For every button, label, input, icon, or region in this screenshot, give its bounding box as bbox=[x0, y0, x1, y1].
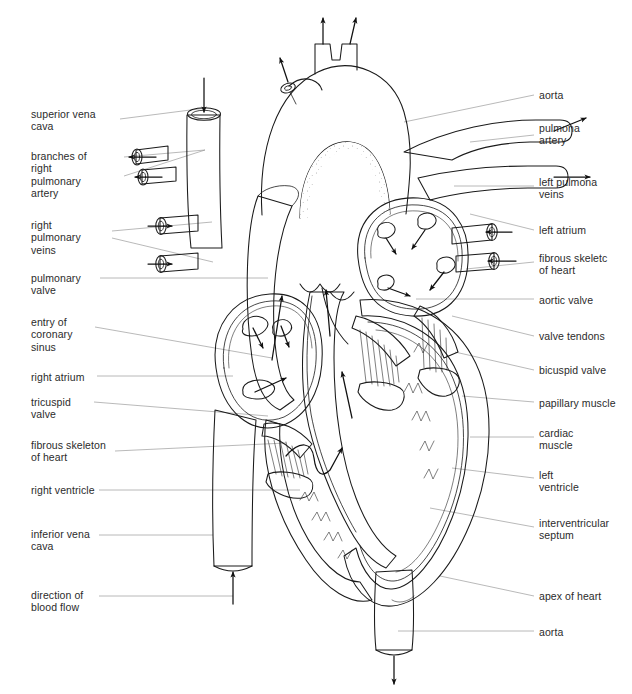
label-tricuspid-valve: tricuspid valve bbox=[31, 396, 71, 421]
label-apex-of-heart: apex of heart bbox=[539, 590, 601, 602]
label-entry-of-coronary-sinus: entry of coronary sinus bbox=[31, 316, 73, 353]
right-pulmonary-vessels bbox=[129, 146, 198, 272]
aorta-arch bbox=[261, 18, 410, 218]
label-left-ventricle: left ventricle bbox=[539, 469, 579, 494]
label-right-pulmonary-veins: right pulmonary veins bbox=[31, 219, 81, 256]
leader-lines-right bbox=[398, 95, 534, 631]
label-papillary-muscle: papillary muscle bbox=[539, 397, 616, 409]
left-atrium-chamber bbox=[358, 198, 469, 316]
label-pulmonary-valve: pulmonary valve bbox=[31, 272, 81, 297]
label-left-atrium: left atrium bbox=[539, 224, 586, 236]
heart-anatomy-drawing bbox=[0, 0, 632, 694]
leader-lines-left bbox=[94, 108, 300, 596]
aortic-root-outflow bbox=[322, 288, 352, 418]
label-valve-tendons: valve tendons bbox=[539, 330, 605, 342]
left-ventricle-chamber bbox=[344, 299, 489, 606]
label-left-pulmonary-veins: left pulmona veins bbox=[539, 176, 597, 201]
chordae-tendineae-left-a bbox=[360, 330, 399, 386]
label-cardiac-muscle: cardiac muscle bbox=[539, 427, 573, 452]
label-right-ventricle: right ventricle bbox=[31, 484, 95, 496]
right-ventricle-chamber bbox=[265, 420, 372, 601]
label-bicuspid-valve: bicuspid valve bbox=[539, 364, 606, 376]
label-aorta-top: aorta bbox=[539, 89, 563, 101]
label-right-atrium: right atrium bbox=[31, 371, 84, 383]
pulmonary-trunk bbox=[247, 186, 298, 410]
label-superior-vena-cava: superior vena cava bbox=[31, 108, 96, 133]
interventricular-septum bbox=[303, 292, 396, 568]
apex-of-heart bbox=[392, 596, 414, 602]
label-fibrous-skeleton-of-heart-left: fibrous skeleton of heart bbox=[31, 439, 106, 464]
label-aortic-valve: aortic valve bbox=[539, 294, 593, 306]
tricuspid-valve-apparatus bbox=[262, 423, 313, 498]
label-direction-of-blood-flow: direction of blood flow bbox=[31, 589, 83, 614]
label-branches-right-pulmonary-artery: branches of right pulmonary artery bbox=[31, 150, 87, 200]
heart-diagram-figure: superior vena cava branches of right pul… bbox=[0, 0, 632, 694]
label-fibrous-skeleton-of-heart-right: fibrous skeletc of heart bbox=[539, 252, 607, 277]
descending-aorta-vessel bbox=[375, 570, 414, 684]
label-aorta-bottom: aorta bbox=[539, 626, 563, 638]
label-inferior-vena-cava: inferior vena cava bbox=[31, 528, 90, 553]
inferior-vena-cava-vessel bbox=[213, 410, 256, 604]
label-interventricular-septum: interventricular septum bbox=[539, 517, 609, 542]
label-pulmonary-artery: pulmona artery bbox=[539, 122, 580, 147]
